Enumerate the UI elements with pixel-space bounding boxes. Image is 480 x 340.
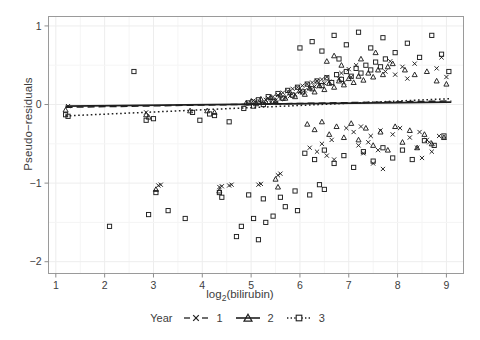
svg-text:−2: −2 bbox=[30, 255, 42, 267]
x-axis-label-main: log bbox=[206, 288, 221, 300]
legend-title: Year bbox=[150, 312, 172, 324]
legend-key-year-3 bbox=[286, 312, 312, 324]
legend-label-year-2: 2 bbox=[268, 312, 274, 324]
legend-key-year-2 bbox=[235, 312, 261, 324]
y-axis-label: Pseudo−residuals bbox=[22, 44, 34, 204]
legend-label-year-1: 1 bbox=[216, 312, 222, 324]
plot-panel-border bbox=[49, 17, 464, 274]
gridlines bbox=[49, 17, 464, 274]
svg-text:0: 0 bbox=[36, 98, 42, 110]
series-2 bbox=[63, 50, 449, 193]
series-1 bbox=[66, 55, 449, 189]
x-axis-label-tail: (bilirubin) bbox=[226, 288, 273, 300]
legend: Year 1 2 3 bbox=[0, 312, 480, 324]
svg-text:1: 1 bbox=[36, 20, 42, 32]
data-points bbox=[63, 30, 451, 242]
legend-key-year-1 bbox=[183, 312, 209, 324]
legend-label-year-3: 3 bbox=[319, 312, 325, 324]
x-axis-label: log2(bilirubin) bbox=[0, 288, 480, 303]
axis-tick-labels: 12345678910−1−2 bbox=[30, 20, 450, 291]
figure-container: 12345678910−1−2 Pseudo−residuals log2(bi… bbox=[0, 0, 480, 340]
